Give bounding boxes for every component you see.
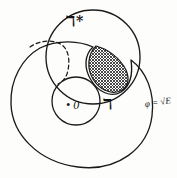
outer-blob-path xyxy=(11,42,153,168)
label-outer-region: ℸ xyxy=(103,97,112,111)
diagram-svg xyxy=(0,0,177,178)
label-inner-origin: • 0 xyxy=(66,99,79,111)
figure-canvas: ℸ* ℸ • 0 φ = √E xyxy=(0,0,177,178)
dashed-arc-path xyxy=(30,41,69,84)
label-upper-circle: ℸ* xyxy=(66,14,84,28)
